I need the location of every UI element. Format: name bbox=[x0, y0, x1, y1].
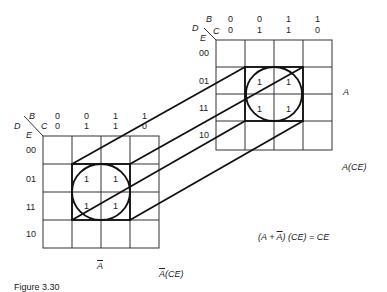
left-map-row-0: 00 bbox=[26, 146, 36, 155]
right-map-col-c-2: 1 bbox=[286, 26, 291, 35]
left-map-row-1: 01 bbox=[26, 175, 36, 184]
left-map-expression: A(CE) bbox=[159, 270, 184, 279]
right-map-col-b-2: 1 bbox=[286, 15, 291, 24]
left-map-label: A bbox=[97, 262, 103, 271]
right-map-col-b-3: 1 bbox=[315, 15, 320, 24]
left-map-col-b-1: 0 bbox=[84, 112, 89, 121]
formula-close: ) (CE) = CE bbox=[283, 232, 330, 242]
left-map-col-b-2: 1 bbox=[113, 112, 118, 121]
right-map-cell-1-1: 1 bbox=[257, 78, 262, 87]
left-map-expression-suffix: (CE) bbox=[165, 269, 184, 279]
left-map-var-d: D bbox=[14, 122, 21, 131]
right-map-col-c-1: 1 bbox=[257, 26, 262, 35]
left-map-col-c-0: 0 bbox=[55, 122, 60, 131]
right-map-row-1: 01 bbox=[199, 77, 209, 86]
left-map-var-e: E bbox=[26, 131, 32, 140]
left-map-col-c-3: 0 bbox=[142, 122, 147, 131]
left-map-cell-1-2: 1 bbox=[113, 175, 118, 184]
right-map-cell-2-2: 1 bbox=[286, 105, 291, 114]
right-map-col-c-3: 0 bbox=[315, 26, 320, 35]
right-map-var-e: E bbox=[200, 34, 206, 43]
left-map-row-2: 11 bbox=[26, 203, 35, 212]
left-map-col-b-0: 0 bbox=[55, 112, 60, 121]
left-map-col-b-3: 1 bbox=[142, 112, 147, 121]
right-map-expression-suffix: (CE) bbox=[348, 162, 367, 172]
left-map-var-c: C bbox=[41, 122, 48, 131]
right-map-expression: A(CE) bbox=[342, 163, 367, 172]
simplification-formula: (A + A) (CE) = CE bbox=[258, 233, 329, 242]
right-map-row-2: 11 bbox=[199, 104, 208, 113]
formula-open: (A + bbox=[258, 232, 277, 242]
right-map-var-d: D bbox=[192, 24, 199, 33]
right-map-cell-1-2: 1 bbox=[286, 78, 291, 87]
right-map-label: A bbox=[343, 88, 349, 97]
right-map-col-c-0: 0 bbox=[228, 26, 233, 35]
right-map-var-b: B bbox=[206, 15, 212, 24]
right-map-col-b-1: 0 bbox=[257, 15, 262, 24]
left-map-col-c-1: 1 bbox=[84, 122, 89, 131]
right-map-col-b-0: 0 bbox=[228, 15, 233, 24]
left-map-col-c-2: 1 bbox=[113, 122, 118, 131]
right-map-cell-2-1: 1 bbox=[257, 105, 262, 114]
left-map-cell-2-2: 1 bbox=[113, 202, 118, 211]
left-map-var-b: B bbox=[29, 112, 35, 121]
left-map-cell-1-1: 1 bbox=[84, 175, 89, 184]
figure-caption: Figure 3.30 bbox=[14, 283, 60, 292]
left-map-cell-2-1: 1 bbox=[84, 202, 89, 211]
right-map-var-c: C bbox=[213, 27, 220, 36]
right-map-row-0: 00 bbox=[199, 49, 209, 58]
left-map-row-3: 10 bbox=[26, 230, 36, 239]
right-map-row-3: 10 bbox=[199, 131, 209, 140]
